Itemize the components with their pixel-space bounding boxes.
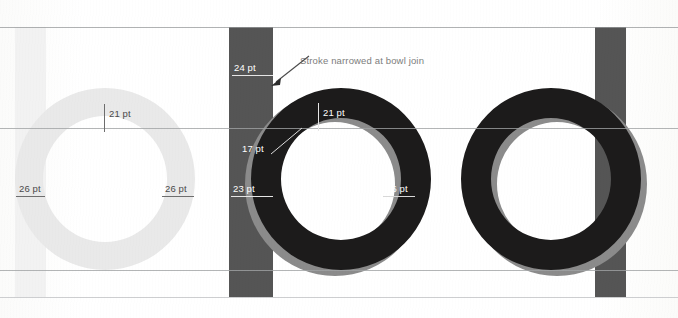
figure-canvas: 21 pt 26 pt 26 pt 24 pt 17 pt 23 pt 21 p… — [0, 0, 678, 318]
measurement-light-o-left: 26 pt — [16, 183, 41, 194]
measurement-label: 17 pt — [242, 143, 264, 154]
guide-baseline — [0, 270, 678, 271]
tick-horizontal — [383, 196, 415, 197]
measurement-bold-b-right: 26 pt — [383, 183, 408, 194]
tick-horizontal — [16, 196, 45, 197]
measurement-bold-b-stem: 24 pt — [232, 62, 256, 73]
guide-descender-line — [0, 297, 678, 298]
tick-vertical — [318, 103, 319, 131]
measurement-label: 26 pt — [19, 183, 41, 194]
tick-diagonal — [270, 127, 310, 155]
measurement-bold-b-top: 21 pt — [318, 103, 345, 118]
measurement-label: 24 pt — [234, 62, 256, 73]
measurement-label: 26 pt — [165, 183, 187, 194]
measurement-label: 26 pt — [386, 183, 408, 194]
measurement-label: 23 pt — [233, 183, 255, 194]
measurement-light-o-right: 26 pt — [162, 183, 187, 194]
measurement-label: 21 pt — [323, 107, 345, 118]
specimen-bold-o — [461, 88, 641, 270]
annotation-arrow-icon — [265, 54, 311, 90]
tick-horizontal — [231, 196, 273, 197]
measurement-bold-b-join: 17 pt — [240, 143, 264, 154]
measurement-light-o-top: 21 pt — [104, 104, 131, 119]
measurement-label: 21 pt — [109, 108, 131, 119]
tick-vertical — [104, 104, 105, 132]
measurement-bold-b-left: 23 pt — [231, 183, 255, 194]
bold-o-ring — [461, 88, 641, 270]
tick-horizontal — [162, 196, 194, 197]
annotation-stroke-narrowed: Stroke narrowed at bowl join — [300, 55, 424, 66]
guide-x-height-line — [0, 128, 678, 129]
guide-ascender-line — [0, 27, 678, 28]
